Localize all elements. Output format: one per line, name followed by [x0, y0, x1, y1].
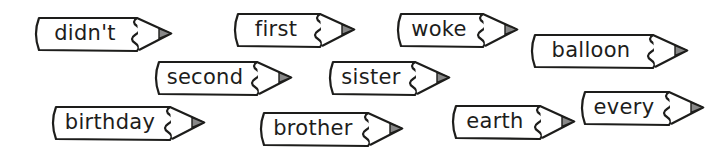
- word-pencil[interactable]: second: [153, 61, 291, 95]
- pencil-word: brother: [258, 112, 368, 146]
- word-pencil[interactable]: balloon: [529, 34, 687, 68]
- pencil-word: first: [232, 13, 320, 47]
- word-pencil[interactable]: woke: [395, 13, 517, 47]
- word-pencil[interactable]: birthday: [50, 106, 204, 140]
- word-pencil[interactable]: sister: [327, 61, 449, 95]
- pencil-word: didn't: [33, 17, 137, 51]
- word-pencil[interactable]: earth: [450, 105, 574, 139]
- word-pencil[interactable]: first: [232, 13, 354, 47]
- pencil-word: balloon: [529, 34, 653, 68]
- pencil-word: second: [153, 61, 257, 95]
- word-pencil[interactable]: every: [579, 91, 703, 125]
- pencil-word: birthday: [50, 106, 170, 140]
- pencil-word: woke: [395, 13, 483, 47]
- word-pencil[interactable]: brother: [258, 112, 402, 146]
- pencil-word: every: [579, 91, 669, 125]
- pencil-word: sister: [327, 61, 415, 95]
- word-pencil[interactable]: didn't: [33, 17, 171, 51]
- pencil-word: earth: [450, 105, 540, 139]
